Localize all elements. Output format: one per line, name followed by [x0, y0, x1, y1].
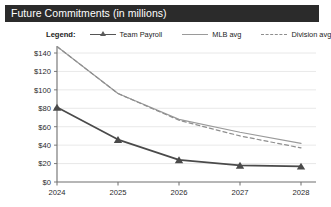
y-axis-tick-label: $100 [34, 86, 51, 95]
y-axis-tick-label: $20 [38, 159, 51, 168]
y-axis-tick-label: $0 [43, 178, 51, 187]
x-axis-tick-label: 2024 [49, 188, 66, 197]
y-axis-tick-label: $140 [34, 49, 51, 58]
y-axis: $0$20$40$60$80$100$120$140 [34, 47, 57, 187]
gridlines [57, 53, 316, 164]
data-point-marker [53, 104, 61, 111]
x-axis: 20242025202620272028 [49, 182, 316, 197]
x-axis-tick-label: 2028 [293, 188, 310, 197]
data-point-marker [114, 136, 122, 143]
series-line-mlb-avg [57, 47, 301, 144]
x-axis-tick-label: 2027 [232, 188, 249, 197]
x-axis-tick-label: 2025 [110, 188, 127, 197]
x-axis-tick-label: 2026 [171, 188, 188, 197]
y-axis-tick-label: $120 [34, 67, 51, 76]
y-axis-tick-label: $60 [38, 123, 51, 132]
series-line-division-avg [57, 47, 301, 148]
y-axis-tick-label: $80 [38, 104, 51, 113]
y-axis-tick-label: $40 [38, 141, 51, 150]
